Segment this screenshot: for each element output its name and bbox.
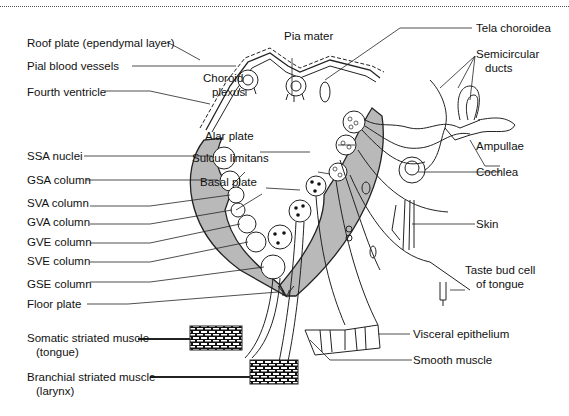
label-alar-plate: Alar plate <box>205 130 254 143</box>
branchial-striated-muscle <box>250 360 298 384</box>
label-taste-bud-2: of tongue <box>476 278 524 291</box>
label-ssa-nuclei: SSA nuclei <box>27 150 83 163</box>
label-gsa-column: GSA column <box>27 174 91 187</box>
label-choroid-plexus-2: plexus <box>212 86 245 99</box>
label-floor-plate: Floor plate <box>27 298 81 311</box>
label-roof-plate: Roof plate (ependymal layer) <box>27 37 175 50</box>
label-semicircular-ducts-1: Semicircular <box>476 48 539 61</box>
label-branchial-muscle: Branchial striated muscle <box>27 371 155 384</box>
visceral-epithelium <box>305 325 380 355</box>
somatic-striated-muscle <box>190 326 242 350</box>
gva-column <box>231 203 245 217</box>
label-pial-blood-vessels: Pial blood vessels <box>27 60 119 73</box>
label-cochlea: Cochlea <box>476 166 518 179</box>
label-somatic-muscle-sub: (tongue) <box>36 346 79 359</box>
label-gve-column: GVE column <box>27 236 92 249</box>
label-skin: Skin <box>476 218 498 231</box>
tela-choroidea-blob <box>320 82 330 102</box>
label-tela-choroidea: Tela choroidea <box>476 22 551 35</box>
label-choroid-plexus-1: Choroid <box>203 72 243 85</box>
label-visceral-epithelium: Visceral epithelium <box>413 328 509 341</box>
label-somatic-muscle: Somatic striated muscle <box>27 332 149 345</box>
label-taste-bud-1: Taste bud cell <box>465 264 535 277</box>
label-fourth-ventricle: Fourth ventricle <box>27 86 106 99</box>
taste-bud-cell <box>440 282 446 306</box>
skin-tissue <box>392 200 414 250</box>
sva-column <box>228 187 244 203</box>
label-pia-mater: Pia mater <box>284 30 333 43</box>
label-basal-plate: Basal plate <box>200 176 257 189</box>
label-ampullae: Ampullae <box>476 140 524 153</box>
label-branchial-muscle-sub: (larynx) <box>36 385 74 398</box>
label-sulcus-limitans: Sulcus limitans <box>192 152 269 165</box>
gve-column <box>238 215 256 233</box>
gse-column <box>261 255 285 279</box>
label-gse-column: GSE column <box>27 278 92 291</box>
label-sva-column: SVA column <box>27 197 89 210</box>
label-semicircular-ducts-2: ducts <box>485 62 513 75</box>
label-gva-column: GVA column <box>27 216 90 229</box>
sve-column <box>246 232 266 252</box>
label-smooth-muscle: Smooth muscle <box>413 354 492 367</box>
choroid-plexus-right <box>286 76 306 102</box>
label-sve-column: SVE column <box>27 255 90 268</box>
